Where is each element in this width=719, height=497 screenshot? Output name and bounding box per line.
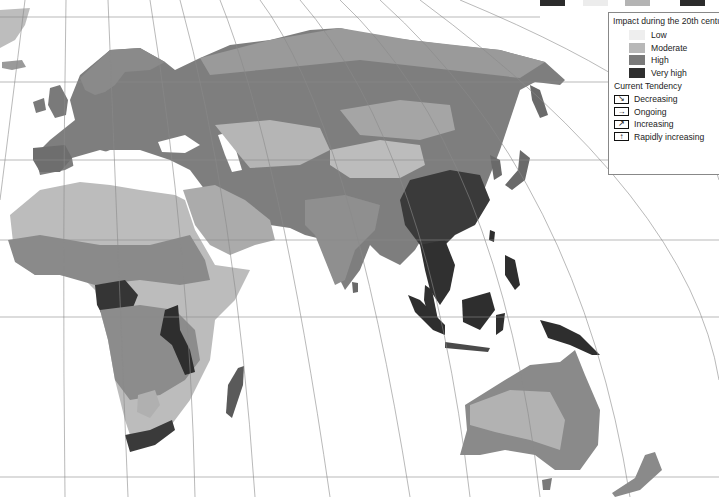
legend-item-high: High	[613, 54, 719, 67]
legend-label: Moderate	[651, 43, 687, 53]
sakhalin-landmass	[530, 85, 548, 118]
top-legend-swatch-2	[583, 0, 608, 6]
arrow-up-right-icon: ↗	[614, 120, 629, 129]
java-landmass	[445, 342, 490, 352]
legend-label: High	[651, 55, 669, 65]
legend-label: Ongoing	[634, 107, 667, 117]
madagascar-landmass	[226, 366, 244, 418]
tasmania-landmass	[542, 478, 552, 490]
top-legend-swatch-1	[540, 0, 565, 6]
legend-label: Rapidly increasing	[634, 132, 704, 142]
sulawesi-landmass	[496, 313, 505, 335]
legend-item-low: Low	[613, 29, 719, 42]
top-legend-swatch-3	[625, 0, 650, 6]
top-legend-swatch-4	[680, 0, 705, 6]
new-zealand-landmass	[612, 452, 662, 497]
philippines-landmass	[505, 255, 520, 290]
tendency-legend-title: Current Tendency	[613, 81, 719, 93]
legend-item-decreasing: ↘ Decreasing	[613, 93, 719, 106]
borneo-landmass	[462, 292, 495, 330]
legend-item-very-high: Very high	[613, 67, 719, 80]
moderate-swatch	[629, 43, 645, 53]
low-swatch	[629, 30, 645, 40]
legend-item-increasing: ↗ Increasing	[613, 118, 719, 131]
legend-label: Increasing	[634, 119, 674, 129]
legend-label: Low	[651, 30, 667, 40]
very-high-swatch	[629, 68, 645, 78]
legend-item-ongoing: → Ongoing	[613, 106, 719, 119]
legend-item-moderate: Moderate	[613, 42, 719, 55]
greenland-landmass	[0, 8, 30, 48]
sri-lanka-landmass	[352, 282, 358, 293]
arrow-up-icon: ↑	[614, 132, 629, 141]
legend-label: Decreasing	[634, 94, 677, 104]
impact-legend-title: Impact during the 20th century	[613, 16, 719, 26]
high-swatch	[629, 55, 645, 65]
ireland-landmass	[33, 98, 46, 113]
map-legend: Impact during the 20th century Low Moder…	[608, 12, 719, 175]
new-guinea-landmass	[540, 320, 600, 355]
arrow-right-icon: →	[614, 107, 629, 116]
iceland-landmass	[2, 60, 26, 70]
arrow-down-right-icon: ↘	[614, 95, 629, 104]
legend-item-rapidly-increasing: ↑ Rapidly increasing	[613, 131, 719, 144]
legend-label: Very high	[651, 68, 687, 78]
